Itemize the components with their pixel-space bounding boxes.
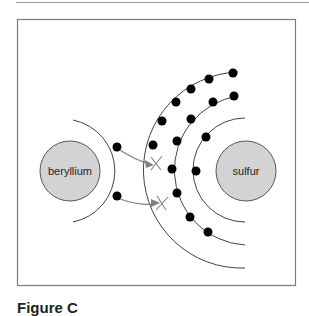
sulfur-electron xyxy=(209,98,218,107)
arrowhead-icon xyxy=(151,199,160,207)
sulfur-electron xyxy=(202,133,211,142)
sulfur-electron xyxy=(168,165,177,174)
sulfur-electron xyxy=(192,167,201,176)
sulfur-label: sulfur xyxy=(233,165,260,177)
sulfur-electron xyxy=(149,141,158,150)
figure-caption: Figure C xyxy=(17,300,78,315)
sulfur-electron xyxy=(158,117,167,126)
sulfur-electron xyxy=(230,92,239,101)
sulfur-electron xyxy=(187,85,196,94)
sulfur-electron xyxy=(172,98,181,107)
beryllium-atom: beryllium xyxy=(40,120,122,222)
sulfur-electron xyxy=(229,69,238,78)
transfer-arrow-bottom xyxy=(120,199,156,204)
sulfur-electron xyxy=(173,137,182,146)
arrowhead-icon xyxy=(145,160,154,168)
x-mark-icon xyxy=(151,156,162,170)
sulfur-electron xyxy=(204,228,213,237)
sulfur-electron xyxy=(173,189,182,198)
beryllium-label: beryllium xyxy=(48,165,92,177)
sulfur-electron xyxy=(187,115,196,124)
sulfur-atom: sulfur xyxy=(143,69,276,269)
sulfur-electron xyxy=(205,75,214,84)
sulfur-electron xyxy=(186,213,195,222)
